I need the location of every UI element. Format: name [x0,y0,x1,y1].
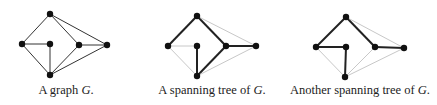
vertex-top [343,14,349,20]
tree-edge-top-right_inner [197,16,226,46]
vertex-left [19,41,25,47]
vertex-top [194,13,200,19]
vertex-right-inner [76,42,82,48]
edge-top-left [22,14,50,44]
vertex-bottom [194,73,200,79]
spanning-tree-2-panel [313,14,407,80]
edge-top-far_right [346,17,404,48]
vertex-top [47,11,53,17]
vertex-center [47,41,53,47]
tree-edge-top-left [316,17,346,47]
caption-text: A spanning tree of [158,83,253,97]
spanning-tree-1-caption: A spanning tree of G. [158,83,265,98]
vertex-left [165,43,171,49]
caption-period: . [90,83,93,97]
graph-g-caption: A graph G. [38,83,93,98]
vertex-right-inner [372,44,378,50]
edge-left-bottom [22,44,50,75]
vertex-right-inner [223,43,229,49]
vertex-bottom [342,74,348,80]
caption-variable: G [418,83,427,97]
caption-text: Another spanning tree of [290,83,418,97]
edge-top-right_inner [50,14,79,45]
tree-edge-right_inner-far_right [375,47,404,48]
edge-top-far_right [50,14,107,45]
vertex-left [313,44,319,50]
caption-period: . [427,83,430,97]
caption-text: A graph [38,83,81,97]
edge-far_right-bottom [197,46,256,76]
vertex-far-right [104,42,110,48]
vertex-bottom [47,72,53,78]
spanning-tree-1-panel [165,13,259,79]
caption-variable: G [253,83,262,97]
vertex-center [343,44,349,50]
vertex-far-right [253,43,259,49]
vertex-center [194,43,200,49]
edge-left-bottom [316,47,345,77]
tree-edge-top-left [168,16,197,46]
edge-far_right-bottom [50,45,107,75]
caption-period: . [263,83,266,97]
tree-edge-center-bottom [345,47,346,77]
edge-far_right-bottom [345,48,404,77]
spanning-tree-2-caption: Another spanning tree of G. [290,83,430,98]
edge-top-far_right [197,16,256,46]
edge-right_inner-bottom [50,45,79,75]
edge-left-bottom [168,46,197,76]
tree-edge-right_inner-bottom [197,46,226,76]
caption-variable: G [81,83,90,97]
edge-right_inner-bottom [345,47,375,77]
graph-g-panel [19,11,110,78]
tree-edge-top-right_inner [346,17,375,47]
vertex-far-right [401,45,407,51]
